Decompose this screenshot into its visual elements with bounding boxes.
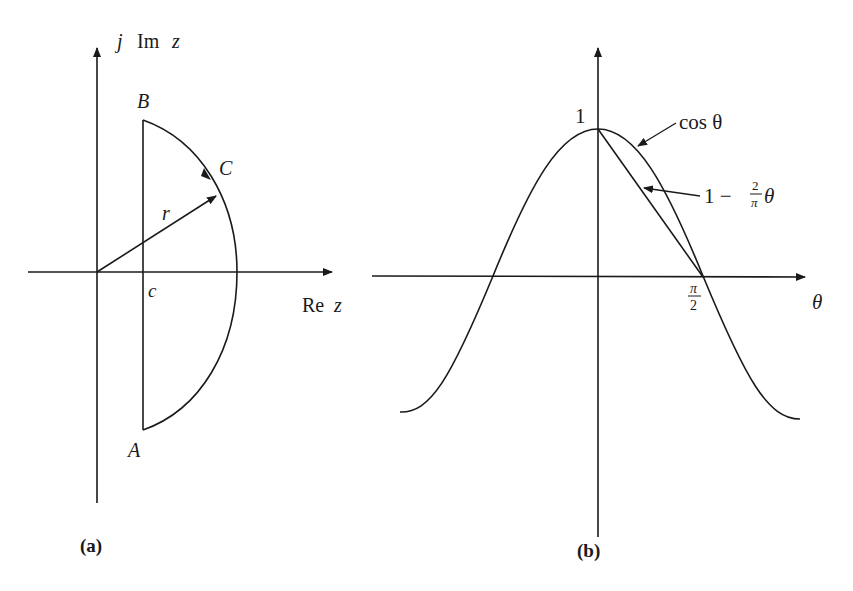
linear-label-den: π — [751, 195, 758, 210]
radius-label-r: r — [162, 202, 170, 224]
radius-vector — [97, 196, 216, 272]
point-label-a: A — [126, 439, 141, 461]
panel-b: 1 cos θ 1 − 2 π θ π 2 θ (b) — [372, 48, 822, 562]
panel-a: j Im z Re z B A C c r (a) — [28, 30, 342, 557]
x-tick-den: 2 — [690, 298, 697, 313]
imag-axis-label-j: j — [114, 30, 123, 53]
cos-label: cos θ — [679, 110, 722, 134]
panel-a-caption: (a) — [80, 535, 102, 557]
linear-label-suffix: θ — [764, 184, 774, 208]
theta-axis — [372, 276, 805, 277]
linear-label-prefix: 1 − — [704, 184, 732, 208]
cos-curve — [400, 129, 800, 419]
panel-b-caption: (b) — [577, 540, 600, 562]
y-tick-1: 1 — [575, 104, 586, 128]
cos-leader-arrow — [638, 123, 676, 146]
x-tick-num: π — [690, 281, 698, 296]
point-label-c-lower: c — [148, 280, 157, 301]
linear-label-num: 2 — [752, 178, 759, 193]
theta-axis-label: θ — [812, 290, 822, 314]
point-label-b: B — [137, 90, 149, 112]
point-label-c: C — [219, 157, 233, 179]
real-axis-label-z: z — [333, 294, 342, 316]
figure: j Im z Re z B A C c r (a) 1 cos θ 1 − 2 … — [0, 0, 853, 591]
imag-axis-label-z: z — [171, 30, 180, 52]
real-axis-label-re: Re — [302, 294, 324, 316]
linear-bound-line — [598, 129, 703, 277]
linear-leader-arrow — [644, 188, 700, 196]
imag-axis-label-im: Im — [137, 30, 160, 52]
